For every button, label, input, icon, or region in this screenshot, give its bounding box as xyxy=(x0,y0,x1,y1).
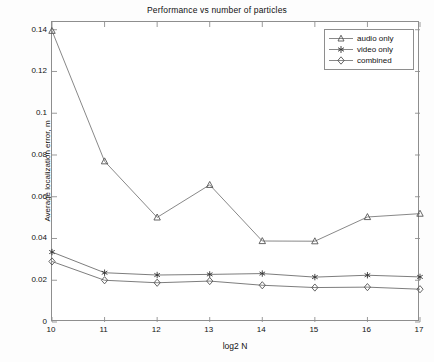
y-tick-label: 0.1 xyxy=(1,108,47,117)
legend-label-video-only: video only xyxy=(354,45,393,54)
y-tick-label: 0.02 xyxy=(1,275,47,284)
x-tick-label: 16 xyxy=(351,325,381,334)
y-tick-label: 0.04 xyxy=(1,233,47,242)
x-tick-label: 14 xyxy=(246,325,276,334)
chart-legend: audio only video only xyxy=(324,29,414,70)
x-axis-label: log2 N xyxy=(51,341,419,351)
asterisk-marker-icon xyxy=(328,44,354,55)
legend-entry-combined[interactable]: combined xyxy=(328,55,410,66)
y-tick-label: 0.12 xyxy=(1,66,47,75)
y-tick-label: 0.06 xyxy=(1,191,47,200)
legend-entry-video-only[interactable]: video only xyxy=(328,44,410,55)
legend-label-combined: combined xyxy=(354,56,392,65)
y-tick-label: 0.14 xyxy=(1,24,47,33)
y-tick-label: 0.08 xyxy=(1,149,47,158)
x-tick-label: 15 xyxy=(299,325,329,334)
triangle-marker-icon xyxy=(328,33,354,44)
chart-title: Performance vs number of particles xyxy=(0,5,434,15)
diamond-marker-icon xyxy=(328,55,354,66)
x-tick-label: 17 xyxy=(404,325,434,334)
chart-figure: Performance vs number of particles Avera… xyxy=(0,0,434,362)
x-tick-label: 11 xyxy=(89,325,119,334)
x-tick-label: 13 xyxy=(194,325,224,334)
x-tick-label: 10 xyxy=(36,325,66,334)
legend-entry-audio-only[interactable]: audio only xyxy=(328,33,410,44)
legend-label-audio-only: audio only xyxy=(354,34,393,43)
x-tick-label: 12 xyxy=(141,325,171,334)
